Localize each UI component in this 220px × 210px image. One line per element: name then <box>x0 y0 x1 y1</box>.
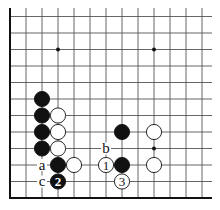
letter-mark-c: c <box>39 173 46 189</box>
hoshi-point <box>56 48 60 52</box>
hoshi-point <box>152 147 156 151</box>
letter-mark-b: b <box>102 140 110 156</box>
white-stone-circle <box>66 157 81 172</box>
white-stone-circle <box>146 124 161 139</box>
black-stone-circle <box>34 124 49 139</box>
black-stone <box>34 108 49 123</box>
move-number-label: 1 <box>103 158 110 173</box>
black-stone-circle <box>50 157 65 172</box>
black-stone <box>34 91 49 106</box>
black-stone <box>34 124 49 139</box>
move-number-label: 2 <box>55 174 62 189</box>
black-stone: 2 <box>50 174 65 189</box>
white-stone-circle <box>50 124 65 139</box>
white-stone <box>50 124 65 139</box>
black-stone-circle <box>34 141 49 156</box>
white-stone: 3 <box>114 174 129 189</box>
go-board: 123 abc <box>0 0 220 210</box>
white-stone: 1 <box>98 157 113 172</box>
letter-mark-a: a <box>39 157 46 173</box>
black-stone <box>114 157 129 172</box>
white-stone <box>146 157 161 172</box>
black-stone-circle <box>34 108 49 123</box>
black-stone <box>114 124 129 139</box>
white-stone <box>146 124 161 139</box>
white-stone <box>50 108 65 123</box>
black-stone-circle <box>34 91 49 106</box>
black-stone <box>50 157 65 172</box>
black-stone-circle <box>114 124 129 139</box>
white-stone-circle <box>146 157 161 172</box>
white-stone-circle <box>50 108 65 123</box>
white-stone <box>50 141 65 156</box>
black-stone <box>34 141 49 156</box>
white-stone <box>66 157 81 172</box>
black-stone-circle <box>114 157 129 172</box>
hoshi-point <box>152 48 156 52</box>
white-stone-circle <box>50 141 65 156</box>
stones: 123 <box>34 91 161 189</box>
move-number-label: 3 <box>119 174 126 189</box>
